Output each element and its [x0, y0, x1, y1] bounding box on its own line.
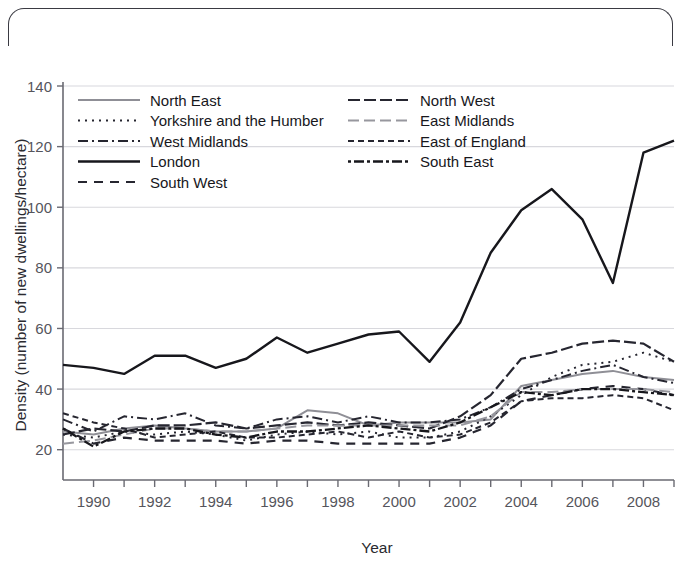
legend-label-london: London [150, 153, 200, 170]
legend-item-east-midlands[interactable]: East Midlands [348, 112, 514, 129]
x-tick-label: 2002 [443, 493, 476, 510]
y-tick-label: 80 [35, 259, 52, 276]
x-tick-label: 2004 [505, 493, 538, 510]
x-tick-label: 1992 [138, 493, 171, 510]
legend-item-north-west[interactable]: North West [348, 92, 496, 109]
legend-label-east-of-england: East of England [420, 133, 526, 150]
legend-label-north-east: North East [150, 92, 222, 109]
legend-item-yorkshire-and-the-humber[interactable]: Yorkshire and the Humber [78, 112, 324, 129]
y-tick-label: 60 [35, 320, 52, 337]
series-line-yorkshire-and-the-humber [63, 353, 674, 441]
legend-label-north-west: North West [420, 92, 496, 109]
chart-svg: 20406080100120140 1990199219941996199820… [0, 0, 681, 564]
legend-label-south-east: South East [420, 153, 494, 170]
y-tick-label: 40 [35, 381, 52, 398]
legend-label-yorkshire-and-the-humber: Yorkshire and the Humber [150, 112, 324, 129]
legend-item-north-east[interactable]: North East [78, 92, 222, 109]
y-axis-ticks: 20406080100120140 [27, 78, 63, 459]
legend-label-east-midlands: East Midlands [420, 112, 514, 129]
x-axis-title: Year [361, 539, 392, 556]
y-axis-title: Density (number of new dwellings/hectare… [12, 139, 29, 432]
legend-item-south-west[interactable]: South West [78, 174, 228, 191]
line-chart-figure: 20406080100120140 1990199219941996199820… [0, 0, 681, 564]
x-tick-label: 2006 [566, 493, 599, 510]
y-tick-label: 140 [27, 78, 52, 95]
x-tick-label: 1990 [77, 493, 110, 510]
y-tick-label: 20 [35, 441, 52, 458]
chart-legend: North EastYorkshire and the HumberWest M… [78, 92, 526, 191]
x-tick-label: 1998 [321, 493, 354, 510]
x-tick-label: 1996 [260, 493, 293, 510]
legend-label-south-west: South West [150, 174, 228, 191]
legend-label-west-midlands: West Midlands [150, 133, 248, 150]
x-tick-label: 1994 [199, 493, 232, 510]
x-tick-label: 2000 [382, 493, 415, 510]
legend-item-london[interactable]: London [78, 153, 200, 170]
y-tick-label: 100 [27, 199, 52, 216]
x-tick-label: 2008 [627, 493, 660, 510]
legend-item-south-east[interactable]: South East [348, 153, 494, 170]
y-tick-label: 120 [27, 138, 52, 155]
x-axis-ticks: 1990199219941996199820002002200420062008 [77, 480, 674, 510]
